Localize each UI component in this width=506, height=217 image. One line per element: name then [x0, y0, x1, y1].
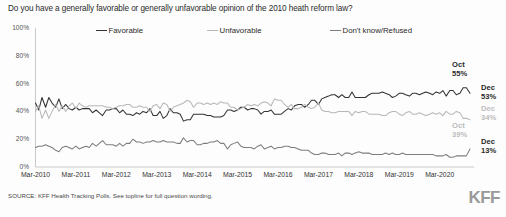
y-tick-label: 0%	[3, 163, 29, 170]
annotation-dontknow-dec: Dec 13%	[481, 137, 496, 155]
annotation-favorable-oct-value: 55%	[452, 69, 467, 78]
x-tick-label: Mar-2015	[215, 171, 261, 178]
annotation-unfavorable-oct: Oct 39%	[452, 121, 467, 139]
annotation-unfavorable-oct-value: 39%	[452, 130, 467, 139]
x-tick-label: Mar-2014	[174, 171, 220, 178]
y-tick-label: 20%	[3, 135, 29, 142]
x-tick-label: Mar-2020	[417, 171, 463, 178]
x-tick-label: Mar-2019	[376, 171, 422, 178]
series-line-favorable	[36, 88, 471, 121]
y-tick-label: 60%	[3, 80, 29, 87]
annotation-favorable-oct-month: Oct	[452, 60, 467, 69]
annotation-unfavorable-dec-value: 34%	[481, 113, 496, 122]
annotation-favorable-oct: Oct 55%	[452, 60, 467, 78]
annotation-favorable-dec: Dec 53%	[481, 83, 496, 101]
kff-logo: KFF	[468, 188, 500, 208]
source-note: SOURCE: KFF Health Tracking Polls. See t…	[8, 192, 213, 199]
annotation-unfavorable-dec: Dec 34%	[481, 104, 496, 122]
x-tick-label: Mar-2016	[255, 171, 301, 178]
y-tick-label: 100%	[3, 24, 29, 31]
x-tick-label: Mar-2012	[93, 171, 139, 178]
chart-plot-area	[0, 0, 506, 217]
annotation-dontknow-dec-month: Dec	[481, 137, 496, 146]
y-tick-label: 80%	[3, 52, 29, 59]
annotation-favorable-dec-month: Dec	[481, 83, 496, 92]
annotation-unfavorable-dec-month: Dec	[481, 104, 496, 113]
x-tick-label: Mar-2010	[13, 171, 59, 178]
annotation-dontknow-dec-value: 13%	[481, 146, 496, 155]
annotation-favorable-dec-value: 53%	[481, 92, 496, 101]
kff-health-reform-opinion-chart: Do you have a generally favorable or gen…	[0, 0, 506, 217]
series-line-unfavorable	[36, 99, 471, 120]
annotation-unfavorable-oct-month: Oct	[452, 121, 467, 130]
x-tick-label: Mar-2017	[295, 171, 341, 178]
x-tick-label: Mar-2011	[53, 171, 99, 178]
x-tick-label: Mar-2013	[134, 171, 180, 178]
x-tick-label: Mar-2018	[336, 171, 382, 178]
y-tick-label: 40%	[3, 107, 29, 114]
series-line-don-t-know-refused	[36, 138, 471, 157]
